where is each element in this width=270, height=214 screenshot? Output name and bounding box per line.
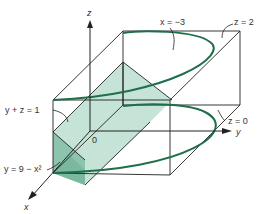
z-axis-label: z: [86, 8, 92, 18]
3d-region-diagram: z y x 0 x = −3 z = 2 z = 0 y + z = 1 y =…: [0, 0, 270, 214]
origin-label: 0: [92, 135, 97, 145]
label-y-9-minus-x2: y = 9 − x²: [4, 164, 42, 174]
y-axis-arrow-icon: [222, 128, 232, 134]
label-z-2: z = 2: [234, 17, 254, 27]
x-axis-label: x: [23, 202, 29, 212]
label-y-plus-z-1: y + z = 1: [5, 105, 40, 115]
label-x-minus-3: x = −3: [160, 17, 185, 27]
parabola-top-curve: [53, 31, 214, 100]
z-axis-arrow-icon: [87, 20, 93, 28]
y-axis-label: y: [235, 127, 241, 137]
label-z-0: z = 0: [228, 116, 248, 126]
